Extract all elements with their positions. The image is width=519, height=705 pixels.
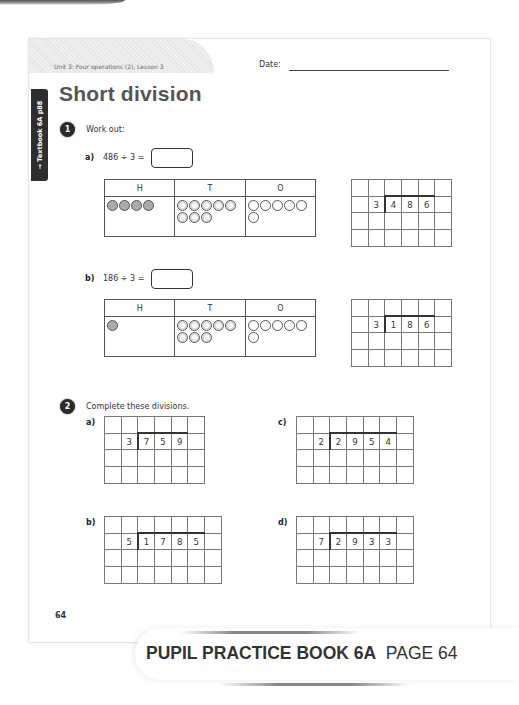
ten-counter bbox=[189, 200, 200, 211]
ten-counter bbox=[213, 320, 224, 331]
question-1-badge: 1 bbox=[60, 122, 75, 137]
dividend-digit: 8 bbox=[402, 316, 419, 333]
divisor: 7 bbox=[313, 533, 330, 550]
dividend-digit: 8 bbox=[171, 533, 188, 550]
one-counter bbox=[272, 200, 283, 211]
banner-decoration-bottom bbox=[220, 683, 410, 686]
q2c-division-grid[interactable]: 22954 bbox=[296, 416, 414, 484]
hundred-counter bbox=[119, 200, 130, 211]
header-ones: O bbox=[245, 300, 315, 316]
dividend-digit: 8 bbox=[402, 196, 419, 213]
ones-cell bbox=[245, 197, 315, 237]
dividend-digit: 7 bbox=[138, 433, 155, 450]
date-field[interactable] bbox=[289, 70, 449, 71]
caption-book: PUPIL PRACTICE BOOK 6A bbox=[146, 643, 376, 663]
q2d-label: d) bbox=[278, 518, 287, 527]
dividend-digit: 7 bbox=[155, 533, 172, 550]
unit-label: Unit 3: Four operations (2), Lesson 3 bbox=[54, 63, 164, 70]
one-counter bbox=[260, 320, 271, 331]
dividend-digit: 1 bbox=[385, 316, 402, 333]
hundreds-cell bbox=[105, 197, 174, 237]
header-ones: O bbox=[245, 180, 315, 196]
question-2-instruction: Complete these divisions. bbox=[86, 402, 189, 411]
header-tens: T bbox=[174, 180, 244, 196]
header-tens: T bbox=[174, 300, 244, 316]
page-number: 64 bbox=[55, 611, 66, 620]
date-label: Date: bbox=[259, 60, 281, 69]
one-counter bbox=[284, 200, 295, 211]
tens-cell bbox=[174, 317, 244, 357]
ten-counter bbox=[201, 212, 212, 223]
q2a-label: a) bbox=[86, 418, 95, 427]
dividend-digit: 9 bbox=[347, 533, 364, 550]
dividend-digit: 3 bbox=[363, 533, 380, 550]
dividend-digit: 9 bbox=[347, 433, 364, 450]
header-hundreds: H bbox=[105, 300, 174, 316]
one-counter bbox=[260, 200, 271, 211]
one-counter bbox=[248, 200, 259, 211]
dividend-digit: 2 bbox=[330, 433, 347, 450]
ten-counter bbox=[177, 212, 188, 223]
q1b-division-grid[interactable]: 3186 bbox=[351, 299, 452, 367]
q1a-answer-box[interactable] bbox=[151, 148, 193, 168]
caption-page: PAGE 64 bbox=[386, 643, 458, 663]
divisor: 3 bbox=[368, 316, 385, 333]
question-1-instruction: Work out: bbox=[86, 125, 125, 134]
dividend-digit: 2 bbox=[330, 533, 347, 550]
one-counter bbox=[296, 320, 307, 331]
page-title: Short division bbox=[59, 82, 202, 106]
ten-counter bbox=[189, 212, 200, 223]
one-counter bbox=[248, 212, 259, 223]
divisor: 3 bbox=[368, 196, 385, 213]
dividend-digit: 5 bbox=[363, 433, 380, 450]
hundred-counter bbox=[107, 200, 118, 211]
header-hundreds: H bbox=[105, 180, 174, 196]
textbook-reference-tab: → Textbook 6A p88 bbox=[31, 89, 48, 181]
banner-decoration-top bbox=[180, 631, 360, 634]
ten-counter bbox=[189, 332, 200, 343]
q2b-division-grid[interactable]: 51785 bbox=[104, 516, 222, 584]
dividend-digit: 5 bbox=[155, 433, 172, 450]
question-2-badge: 2 bbox=[60, 399, 75, 414]
ten-counter bbox=[189, 320, 200, 331]
q1a-expression: 486 ÷ 3 = bbox=[103, 153, 144, 162]
hundred-counter bbox=[107, 320, 118, 331]
dividend-digit: 6 bbox=[418, 196, 435, 213]
one-counter bbox=[296, 200, 307, 211]
divisor: 5 bbox=[121, 533, 138, 550]
ten-counter bbox=[177, 320, 188, 331]
hundred-counter bbox=[143, 200, 154, 211]
q1a-label: a) bbox=[85, 153, 94, 162]
one-counter bbox=[284, 320, 295, 331]
q2c-label: c) bbox=[278, 418, 286, 427]
textbook-reference-label: → Textbook 6A p88 bbox=[36, 101, 44, 170]
q1a-division-grid[interactable]: 3486 bbox=[351, 179, 452, 247]
one-counter bbox=[248, 320, 259, 331]
dividend-digit: 5 bbox=[188, 533, 205, 550]
dividend-digit: 4 bbox=[385, 196, 402, 213]
divisor: 3 bbox=[121, 433, 138, 450]
ones-cell bbox=[245, 317, 315, 357]
caption-text: PUPIL PRACTICE BOOK 6A PAGE 64 bbox=[146, 643, 458, 664]
dividend-digit: 4 bbox=[380, 433, 397, 450]
q1b-label: b) bbox=[85, 274, 94, 283]
ten-counter bbox=[177, 200, 188, 211]
divisor: 2 bbox=[313, 433, 330, 450]
ten-counter bbox=[201, 200, 212, 211]
ten-counter bbox=[225, 200, 236, 211]
q1b-expression: 186 ÷ 3 = bbox=[103, 274, 144, 283]
one-counter bbox=[272, 320, 283, 331]
q1b-answer-box[interactable] bbox=[151, 269, 193, 289]
dividend-digit: 3 bbox=[380, 533, 397, 550]
dividend-digit: 6 bbox=[418, 316, 435, 333]
hundred-counter bbox=[131, 200, 142, 211]
q2a-division-grid[interactable]: 3759 bbox=[104, 416, 205, 484]
tens-cell bbox=[174, 197, 244, 237]
ten-counter bbox=[201, 332, 212, 343]
q1a-place-value-table: H T O bbox=[104, 179, 316, 237]
one-counter bbox=[248, 332, 259, 343]
dividend-digit: 9 bbox=[171, 433, 188, 450]
ten-counter bbox=[213, 200, 224, 211]
ten-counter bbox=[177, 332, 188, 343]
q2d-division-grid[interactable]: 72933 bbox=[296, 516, 414, 584]
